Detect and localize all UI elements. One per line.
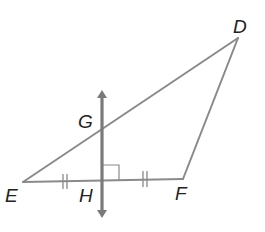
segment-fd bbox=[183, 38, 238, 179]
label-d: D bbox=[233, 16, 247, 37]
label-f: F bbox=[175, 183, 188, 204]
geometry-diagram: D G E H F bbox=[0, 0, 265, 232]
label-e: E bbox=[5, 185, 18, 206]
label-h: H bbox=[79, 185, 93, 206]
label-g: G bbox=[78, 111, 93, 132]
right-angle-mark bbox=[102, 165, 119, 181]
segment-de bbox=[23, 38, 238, 182]
